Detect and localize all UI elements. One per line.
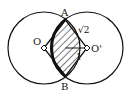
label-A: A <box>60 7 69 18</box>
label-B: B <box>61 81 68 92</box>
label-O: O <box>33 36 41 47</box>
label-half-diagonal-1: 1 <box>76 52 82 62</box>
geometry-diagram: A B O O' √2 1 <box>0 0 132 93</box>
label-side-sqrt2: √2 <box>78 25 89 35</box>
label-O-prime: O' <box>91 43 102 54</box>
